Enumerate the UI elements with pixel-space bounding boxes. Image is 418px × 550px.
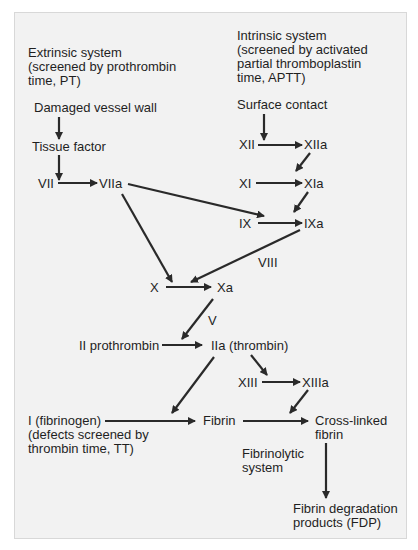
fibrinolytic-system-label: Fibrinolytic system [242, 447, 304, 475]
factor-viii-label: VIII [258, 256, 278, 270]
factor-ix-label: IX [239, 217, 251, 231]
factor-x-label: X [150, 281, 159, 295]
arrow-ixa-to-x [191, 230, 300, 282]
intrinsic-heading: Intrinsic system (screened by activated … [237, 29, 368, 85]
arrow-xiia-to-xi [296, 153, 310, 171]
arrow-viia-to-x [122, 194, 172, 282]
damaged-vessel-wall-label: Damaged vessel wall [34, 101, 157, 115]
arrow-xiiia-to-crosslinked [290, 390, 308, 413]
factor-xiiia-label: XIIIa [302, 376, 329, 390]
arrow-xia-to-ix [294, 192, 308, 212]
extrinsic-heading: Extrinsic system (screened by prothrombi… [28, 46, 176, 88]
tissue-factor-label: Tissue factor [32, 140, 106, 154]
thrombin-label: IIa (thrombin) [211, 339, 288, 353]
cross-linked-fibrin-label: Cross-linked fibrin [315, 414, 387, 442]
factor-viia-label: VIIa [99, 177, 122, 191]
fibrin-label: Fibrin [203, 414, 236, 428]
arrow-iia-to-xiii [251, 355, 267, 375]
fdp-label: Fibrin degradation products (FDP) [293, 502, 398, 530]
surface-contact-label: Surface contact [237, 98, 327, 112]
factor-xia-label: XIa [304, 177, 324, 191]
factor-v-label: V [208, 314, 217, 328]
prothrombin-label: II prothrombin [79, 339, 159, 353]
factor-ixa-label: IXa [304, 217, 324, 231]
factor-xiia-label: XIIa [304, 138, 327, 152]
fibrinogen-label: I (fibrinogen) (defects screened by thro… [28, 414, 149, 456]
factor-xiii-label: XIII [238, 376, 258, 390]
arrow-iia-to-fibrin [172, 357, 214, 413]
factor-xi-label: XI [239, 177, 251, 191]
factor-vii-label: VII [38, 177, 54, 191]
factor-xii-label: XII [239, 138, 255, 152]
factor-xa-label: Xa [217, 281, 233, 295]
